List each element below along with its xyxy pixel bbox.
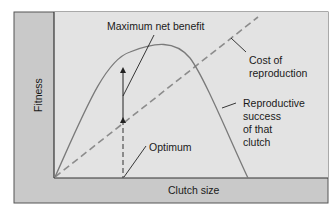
success-label-1: Reproductive [243, 97, 305, 109]
max-benefit-label: Maximum net benefit [107, 20, 205, 32]
cost-label-1: Cost of [249, 54, 282, 66]
cost-label-2: reproduction [249, 67, 308, 79]
success-label-2: success [243, 110, 281, 122]
success-label-4: clutch [243, 136, 271, 148]
y-axis-label: Fitness [32, 78, 44, 112]
clutch-size-diagram: Maximum net benefit Cost of reproduction… [0, 0, 336, 214]
x-axis-label: Clutch size [168, 184, 220, 196]
plot-area [54, 12, 328, 178]
optimum-label: Optimum [149, 141, 192, 153]
success-label-3: of that [243, 123, 272, 135]
